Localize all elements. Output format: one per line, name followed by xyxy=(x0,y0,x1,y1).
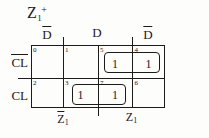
implicant-group-bottom xyxy=(72,84,126,105)
overbar-cl: CL xyxy=(11,54,28,70)
cell-number-5: 5 xyxy=(100,47,104,54)
title-variable: Z xyxy=(27,4,37,21)
cell-number-0: 0 xyxy=(33,47,37,54)
cell-number-3: 3 xyxy=(65,80,69,87)
cell-number-2: 2 xyxy=(33,80,37,87)
implicant-group-top xyxy=(104,52,160,73)
z1-subscript: 1 xyxy=(133,116,137,125)
col-label-d: D xyxy=(92,26,101,40)
cell-number-1: 1 xyxy=(65,47,69,54)
grid-line-h1 xyxy=(31,78,165,79)
title-superscript: + xyxy=(41,4,47,15)
grid-line-v1 xyxy=(63,45,64,108)
cl-label: CL xyxy=(11,88,28,103)
d-label: D xyxy=(92,25,101,40)
cl-region-tick xyxy=(18,78,31,79)
kmap-figure: Z1+ D D D CL CL 0 1 5 4 2 3 7 6 1 1 1 1 … xyxy=(0,0,209,138)
d-region-tick-left xyxy=(63,37,64,45)
overbar-d-left: D xyxy=(42,26,51,42)
overbar-d-right: D xyxy=(143,26,152,42)
z1-region-tick xyxy=(98,108,99,116)
cell-number-6: 6 xyxy=(135,80,139,87)
row-label-cl: CL xyxy=(2,89,28,103)
d-region-tick-right xyxy=(132,37,133,45)
bottom-label-z1: Z1 xyxy=(126,111,137,126)
col-label-not-d-left: D xyxy=(42,26,51,42)
col-label-not-d-right: D xyxy=(143,26,152,42)
not-z1-subscript: 1 xyxy=(65,118,69,127)
row-label-not-cl: CL xyxy=(2,54,28,70)
map-title: Z1+ xyxy=(27,4,47,23)
bottom-label-not-z1: Z1 xyxy=(57,111,68,128)
